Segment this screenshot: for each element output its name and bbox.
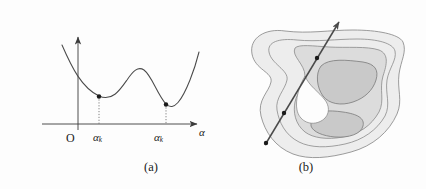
marker-x-k-plus-1 (282, 111, 286, 115)
caption-panel-b: (b) (286, 160, 326, 175)
marker-global-minimum (164, 102, 168, 106)
x-axis-label: α (199, 126, 205, 138)
marker-x-k (264, 141, 268, 145)
objective-curve (62, 45, 199, 107)
origin-label: O (66, 131, 75, 146)
marker-tangency-point (315, 56, 319, 60)
panel-a-one-dimensional-plot: O αk αk α (0, 0, 213, 189)
tick-label-alpha-k-global: αk (154, 131, 163, 144)
figure-container: O αk αk α (0, 0, 426, 189)
caption-panel-a: (a) (131, 160, 171, 175)
marker-local-minimum (97, 94, 101, 98)
panel-a-svg (0, 0, 213, 189)
tick-label-alpha-k-local-sub: k (99, 136, 102, 144)
tick-label-alpha-k-global-sub: k (160, 136, 163, 144)
tick-label-alpha-k-local: αk (93, 131, 102, 144)
